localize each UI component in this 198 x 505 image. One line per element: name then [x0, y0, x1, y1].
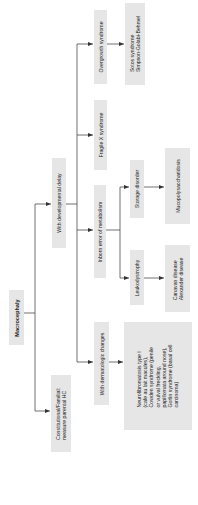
node-label: Inborn error of metabolism — [97, 201, 103, 262]
node-label: With developmental delay — [56, 173, 62, 232]
node-label: Overgrowth syndrome — [97, 21, 103, 72]
node-macrocephaly: Macrocephaly — [9, 290, 24, 345]
node-label: Storage disorder — [134, 170, 140, 208]
node-storage: Storage disorder — [130, 160, 144, 218]
node-mucopolysaccharidosis: Mucopolysaccharidosis — [165, 148, 190, 224]
node-overgrowth: Overgrowth syndrome — [94, 10, 107, 84]
node-label: Macrocephaly — [13, 299, 19, 336]
node-label: Neurofibromatosis type I (cafe au lait m… — [136, 345, 179, 408]
node-inborn-error: Inborn error of metabolism — [94, 185, 106, 278]
node-label: Leukodystrophy — [134, 259, 140, 296]
node-label: Fragile X syndrome — [97, 113, 103, 158]
node-dermatologic: With dermatologic changes — [94, 322, 109, 405]
node-label: Sotos syndrome Simpson-Golabi-Behmel — [129, 16, 141, 72]
node-label: Mucopolysaccharidosis — [174, 159, 180, 213]
node-label: Canavan disease Alexander disease — [171, 257, 183, 300]
node-fragile-x: Fragile X syndrome — [94, 100, 107, 170]
node-leukodystrophy: Leukodystrophy — [130, 250, 144, 305]
node-canavan: Canavan disease Alexander disease — [165, 245, 190, 312]
node-constitutional: Constitutional/Familial: measure parenta… — [51, 375, 71, 452]
node-neurofibromatosis: Neurofibromatosis type I (cafe au lait m… — [124, 322, 192, 430]
node-sotos: Sotos syndrome Simpson-Golabi-Behmel — [125, 3, 145, 85]
node-label: With dermatologic changes — [98, 332, 104, 395]
node-label: Constitutional/Familial: measure parenta… — [55, 387, 67, 439]
node-developmental-delay: With developmental delay — [52, 158, 66, 248]
